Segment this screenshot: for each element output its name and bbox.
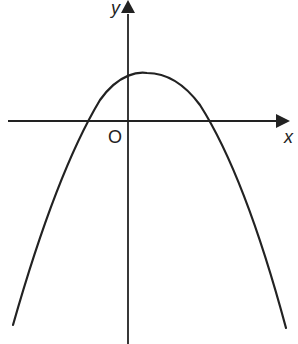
origin-label: O xyxy=(108,127,122,147)
y-axis-arrow-icon xyxy=(121,0,135,13)
parabola-diagram: y x O xyxy=(0,0,298,344)
x-axis-label: x xyxy=(283,127,294,147)
y-axis-label: y xyxy=(109,0,121,18)
parabola-curve xyxy=(13,73,286,328)
x-axis-arrow-icon xyxy=(276,114,290,128)
